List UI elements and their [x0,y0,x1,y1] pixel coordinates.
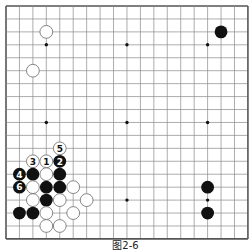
move-number-label: 2 [57,157,63,167]
star-point-icon [125,198,128,201]
white-stone [40,25,53,38]
white-stone [53,194,66,207]
black-stone [201,181,214,194]
star-point-icon [125,121,128,124]
white-stone [26,194,39,207]
white-stone [40,220,53,233]
black-stone [215,25,228,38]
black-stone: 2 [53,155,66,168]
move-number-label: 6 [16,182,22,192]
move-number-label: 1 [43,157,49,167]
black-stone: 6 [13,181,26,194]
black-stone [13,207,26,220]
star-point-icon [206,43,209,46]
black-stone [40,181,53,194]
white-stone [40,207,53,220]
white-stone [26,181,39,194]
black-stone [201,207,214,220]
black-stone [40,194,53,207]
stones-layer: 531246 [13,25,227,232]
star-point-icon [45,121,48,124]
black-stone [53,168,66,181]
white-stone [67,181,80,194]
move-number-label: 4 [16,170,22,180]
white-stone [40,168,53,181]
black-stone [26,207,39,220]
white-stone: 3 [26,155,39,168]
white-stone: 5 [53,142,66,155]
star-point-icon [125,43,128,46]
white-stone: 1 [40,155,53,168]
move-number-label: 5 [57,144,63,154]
go-board: 531246 [0,0,251,243]
star-point-icon [206,121,209,124]
white-stone [53,220,66,233]
white-stone [26,64,39,77]
figure-caption: 图2-6 [0,240,251,252]
black-stone [53,181,66,194]
white-stone [67,207,80,220]
star-point-icon [206,198,209,201]
black-stone: 4 [13,168,26,181]
move-number-label: 3 [30,157,36,167]
black-stone [26,168,39,181]
star-point-icon [45,43,48,46]
white-stone [80,194,93,207]
